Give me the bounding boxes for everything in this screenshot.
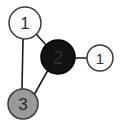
node-1-right-circle[interactable] (87, 45, 113, 71)
node-1-top-left-circle[interactable] (9, 7, 41, 39)
edge-node1-node3 (22, 39, 23, 89)
edge-node3-node2 (34, 70, 48, 95)
graph-diagram-canvas: 1 3 1 2 (0, 0, 122, 125)
node-3-bottom-left-circle[interactable] (8, 89, 38, 119)
node-3-bottom-left[interactable]: 3 (8, 89, 38, 119)
node-2-center[interactable]: 2 (41, 40, 75, 74)
node-1-right[interactable]: 1 (87, 45, 113, 71)
edge-node1-node2 (36, 34, 47, 46)
node-2-center-circle[interactable] (41, 40, 75, 74)
node-group: 1 3 1 2 (8, 7, 113, 119)
graph-svg: 1 3 1 2 (0, 0, 122, 125)
node-1-top-left[interactable]: 1 (9, 7, 41, 39)
